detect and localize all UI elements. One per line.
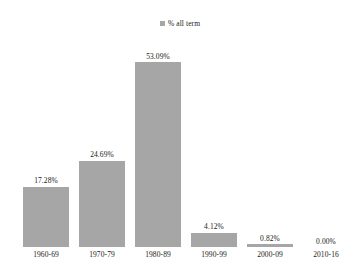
category-label: 2010-16: [303, 250, 349, 260]
category-label: 2000-09: [247, 250, 293, 260]
bar: [247, 244, 293, 247]
bar-value-label: 17.28%: [34, 176, 58, 185]
bar: [191, 233, 237, 247]
bar-group: 53.09%: [135, 52, 181, 248]
bar: [23, 187, 69, 247]
category-label: 1960-69: [23, 250, 69, 260]
bar-group: 4.12%: [191, 222, 237, 247]
bar-value-label: 4.12%: [204, 222, 224, 231]
bar-group: 0.82%: [247, 234, 293, 247]
category-label: 1990-99: [191, 250, 237, 260]
bar-value-label: 53.09%: [146, 52, 170, 61]
bar: [135, 62, 181, 247]
bar-group: 24.69%: [79, 150, 125, 247]
bar-value-label: 24.69%: [90, 150, 114, 159]
plot-area: 17.28%1960-6924.69%1970-7953.09%1980-894…: [0, 0, 360, 275]
bar-value-label: 0.00%: [316, 237, 336, 246]
bar: [79, 161, 125, 247]
bar-group: 0.00%: [303, 237, 349, 248]
category-label: 1980-89: [135, 250, 181, 260]
category-label: 1970-79: [79, 250, 125, 260]
bar-value-label: 0.82%: [260, 234, 280, 243]
bar-group: 17.28%: [23, 176, 69, 247]
bar-chart: % all term 17.28%1960-6924.69%1970-7953.…: [0, 0, 360, 275]
